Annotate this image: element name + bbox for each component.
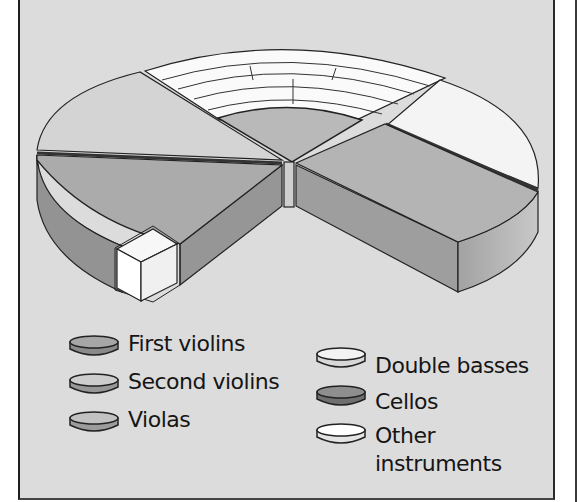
disc-swatch-icon xyxy=(68,333,120,359)
legend-item-other-instruments: Other instruments xyxy=(315,418,505,478)
legend-item-second-violins: Second violins xyxy=(68,368,279,397)
white-block xyxy=(115,226,180,302)
legend-item-first-violins: First violins xyxy=(68,330,245,359)
disc-swatch-icon xyxy=(315,421,367,447)
legend-item-double-basses: Double basses xyxy=(315,342,529,380)
center-seam xyxy=(284,162,294,207)
orchestra-pie-diagram xyxy=(0,0,585,330)
legend-item-cellos: Cellos xyxy=(315,380,438,416)
legend-label: Cellos xyxy=(375,388,438,416)
legend-label: First violins xyxy=(128,330,245,358)
legend-label: Violas xyxy=(128,406,190,434)
legend-label: Double basses xyxy=(375,352,529,380)
legend-item-violas: Violas xyxy=(68,406,190,435)
legend-label: Other instruments xyxy=(375,422,505,478)
legend-label: Second violins xyxy=(128,368,279,396)
disc-swatch-icon xyxy=(68,409,120,435)
disc-swatch-icon xyxy=(68,371,120,397)
disc-swatch-icon xyxy=(315,383,367,409)
disc-swatch-icon xyxy=(315,345,367,371)
